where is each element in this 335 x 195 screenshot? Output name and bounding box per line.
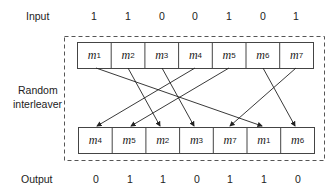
top-cell-m3: m3 (145, 43, 179, 69)
top-cell-m7: m7 (280, 43, 314, 69)
bottom-cell-m5: m5 (112, 128, 146, 154)
bottom-cell-m2: m2 (146, 128, 180, 154)
bottom-cell-m1: m1 (247, 128, 281, 154)
bottom-cell-m3: m3 (180, 128, 214, 154)
top-cell-m4: m4 (179, 43, 213, 69)
top-cell-m5: m5 (212, 43, 246, 69)
bottom-cell-m6: m6 (281, 128, 315, 154)
top-cell-m2: m2 (111, 43, 145, 69)
interleaver-diagram-lines (0, 0, 335, 195)
top-cell-m1: m1 (78, 43, 112, 69)
top-cell-m6: m6 (246, 43, 280, 69)
bottom-cell-m4: m4 (79, 128, 113, 154)
bottom-cell-m7: m7 (213, 128, 247, 154)
